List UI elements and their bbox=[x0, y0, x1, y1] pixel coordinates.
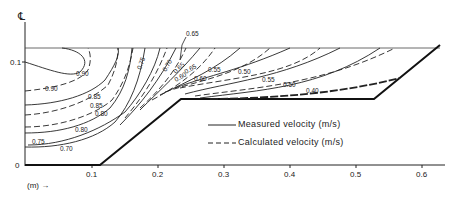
y-tick-0.1: 0.1 bbox=[10, 58, 22, 67]
contour-label: 0.85 bbox=[88, 93, 101, 100]
velocity-contour-figure: ℄ 0.1 0 0.1 0.2 0.3 0.4 0.5 0.6 (m) → bbox=[0, 0, 452, 198]
x-tick-0.3: 0.3 bbox=[218, 170, 230, 179]
y-axis: ℄ 0.1 0 bbox=[10, 10, 25, 170]
contour-label: 0.55 bbox=[208, 66, 221, 73]
legend: Measured velocity (m/s) Calculated veloc… bbox=[208, 119, 344, 147]
centerline-symbol: ℄ bbox=[17, 10, 25, 22]
contour-label: 0.50 bbox=[238, 68, 251, 75]
contour-label: 0.50 bbox=[283, 81, 296, 88]
contour-label: 0.85 bbox=[90, 102, 103, 109]
x-unit-label: (m) → bbox=[27, 181, 49, 190]
contour-label: 0.75 bbox=[135, 56, 146, 71]
leader-line bbox=[180, 37, 186, 60]
x-tick-0.1: 0.1 bbox=[86, 170, 98, 179]
x-tick-0.6: 0.6 bbox=[416, 170, 428, 179]
contour-label: 0.65 bbox=[186, 30, 199, 37]
contour-label: 0.80 bbox=[75, 126, 88, 133]
x-tick-0.4: 0.4 bbox=[284, 170, 296, 179]
contour-label: 0.55 bbox=[262, 76, 275, 83]
x-tick-0.2: 0.2 bbox=[152, 170, 164, 179]
channel-boundary bbox=[25, 45, 440, 165]
contour-label: 0.60 bbox=[194, 75, 207, 82]
x-axis: 0.1 0.2 0.3 0.4 0.5 0.6 (m) → bbox=[25, 165, 445, 190]
x-tick-0.5: 0.5 bbox=[350, 170, 362, 179]
contour-chart: ℄ 0.1 0 0.1 0.2 0.3 0.4 0.5 0.6 (m) → bbox=[0, 0, 452, 198]
contour-label: 0.90 bbox=[45, 85, 58, 92]
y-tick-0: 0 bbox=[15, 161, 20, 170]
contour-label: 0.80 bbox=[95, 110, 108, 117]
contour-label: 0.70 bbox=[60, 145, 73, 152]
contour-label: 0.40 bbox=[306, 87, 319, 94]
legend-calculated: Calculated velocity (m/s) bbox=[238, 137, 344, 147]
contour-label: 0.90 bbox=[76, 70, 89, 77]
contour-label: 0.75 bbox=[32, 138, 45, 145]
legend-measured: Measured velocity (m/s) bbox=[238, 119, 340, 129]
